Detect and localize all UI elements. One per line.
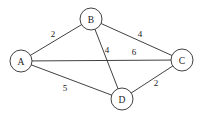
graph-node-a: A — [10, 50, 32, 72]
edge-weight-a-b: 2 — [51, 29, 56, 39]
edge-weight-a-c: 6 — [132, 47, 137, 57]
node-label-c: C — [179, 56, 185, 66]
graph-edge-b-c — [101, 24, 172, 56]
graph-edge-a-d — [31, 65, 111, 95]
node-label-b: B — [88, 15, 94, 25]
node-label-d: D — [119, 95, 126, 105]
edge-weight-b-d: 4 — [105, 45, 110, 55]
graph-edge-a-b — [30, 25, 81, 56]
node-label-a: A — [18, 57, 25, 67]
edge-weight-b-c: 4 — [138, 29, 143, 39]
graph-node-b: B — [80, 8, 102, 30]
nodes-layer: ABCD — [10, 8, 193, 110]
edge-weight-a-d: 5 — [63, 83, 68, 93]
graph-edge-d-c — [131, 66, 173, 93]
edge-weight-d-c: 2 — [154, 78, 159, 88]
graph-node-d: D — [111, 88, 133, 110]
graph-edge-b-d — [95, 29, 118, 88]
graph-node-c: C — [171, 49, 193, 71]
graph-edge-a-c — [32, 60, 171, 61]
graph-diagram: ABCD 244652 — [0, 0, 204, 123]
graph-canvas: ABCD 244652 — [0, 0, 204, 123]
